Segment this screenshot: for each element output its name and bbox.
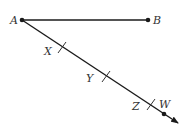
tick-z bbox=[147, 99, 155, 110]
geometry-diagram: A B X Y Z W bbox=[0, 0, 182, 128]
ray-aw bbox=[22, 20, 178, 123]
label-x: X bbox=[43, 45, 53, 58]
point-w bbox=[162, 112, 167, 117]
label-y: Y bbox=[86, 72, 95, 85]
point-b bbox=[146, 18, 151, 23]
label-b: B bbox=[152, 14, 161, 27]
label-a: A bbox=[9, 14, 18, 27]
point-a bbox=[20, 18, 25, 23]
label-w: W bbox=[159, 98, 172, 111]
label-z: Z bbox=[131, 100, 140, 113]
